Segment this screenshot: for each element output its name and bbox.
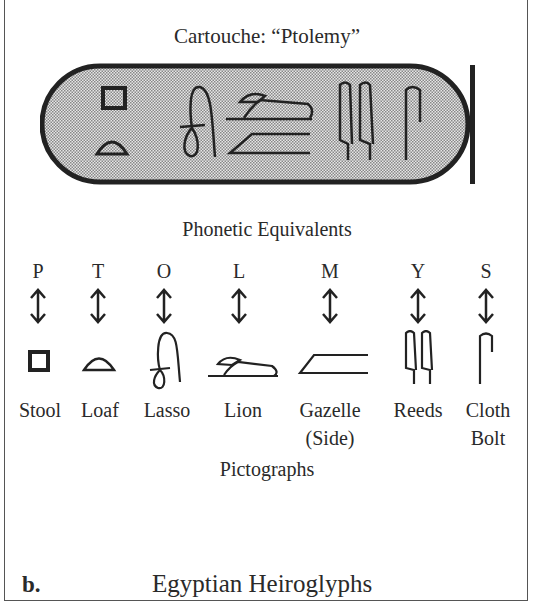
pictographs-label: Pictographs <box>0 458 534 481</box>
glyph-name-cloth-bolt: ClothBolt <box>443 396 533 452</box>
letter-m: M <box>310 260 350 283</box>
figure-title: Cartouche: “Ptolemy” <box>0 24 534 49</box>
glyph-name-gazelle: Gazelle(Side) <box>285 396 375 452</box>
double-arrow-icon <box>408 288 428 324</box>
lion-icon <box>208 358 278 376</box>
cartouche <box>40 60 500 190</box>
letter-p: P <box>18 260 58 283</box>
letter-t: T <box>78 260 118 283</box>
panel-label: b. <box>22 572 41 598</box>
figure-caption: Egyptian Heiroglyphs <box>152 570 372 598</box>
double-arrow-icon <box>88 288 108 324</box>
double-arrow-icon <box>28 288 48 324</box>
stool-icon <box>30 352 48 370</box>
letter-y: Y <box>398 260 438 283</box>
letter-l: L <box>219 260 259 283</box>
double-arrow-icon <box>320 288 340 324</box>
letter-o: O <box>144 260 184 283</box>
cloth-bolt-icon <box>480 334 492 385</box>
double-arrow-icon <box>476 288 496 324</box>
double-arrow-icon <box>229 288 249 324</box>
section-heading: Phonetic Equivalents <box>0 218 534 241</box>
loaf-icon <box>84 359 114 371</box>
pictograph-row <box>0 330 534 392</box>
double-arrow-icon <box>154 288 174 324</box>
gazelle-side-icon <box>300 355 368 373</box>
lasso-icon <box>150 333 180 388</box>
reeds-icon <box>406 331 432 384</box>
letter-s: S <box>466 260 506 283</box>
glyph-name-lion: Lion <box>198 396 288 424</box>
